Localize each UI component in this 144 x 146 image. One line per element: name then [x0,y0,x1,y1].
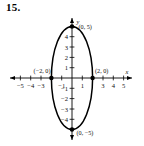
annotation-vertex-right: (2, 0) [95,67,108,75]
point-0-neg5 [70,127,74,131]
point-neg2-0 [49,76,53,80]
x-axis-arrow-right [127,76,132,80]
x-tick-labels: −5 −4 −3 −1 1 3 4 5 [17,82,126,89]
problem-number: 15. [6,1,20,13]
y-tick-label-4: 4 [65,33,69,40]
point-2-0 [90,76,94,80]
y-tick-label-neg1: −1 [61,85,68,92]
x-axis-arrow-left [10,76,15,80]
point-0-5 [70,24,74,28]
x-tick-label-1: 1 [81,82,84,89]
x-tick-label-4: 4 [112,82,116,89]
x-tick-label-neg4: −4 [27,82,35,89]
x-tick-label-neg3: −3 [37,82,45,89]
figure-container: 15. [0,0,144,146]
coordinate-plane-graph: −5 −4 −3 −1 1 3 4 5 4 3 2 1 −1 −2 −3 −4 [0,14,144,146]
annotation-vertex-left: (−2, 0) [34,67,51,75]
plot-area: −5 −4 −3 −1 1 3 4 5 4 3 2 1 −1 −2 −3 −4 [0,14,144,146]
y-axis-arrow-up [70,18,74,23]
y-tick-label-neg4: −4 [61,116,69,123]
y-tick-label-3: 3 [65,44,69,51]
x-axis-label: x [125,68,129,75]
y-tick-label-1: 1 [65,64,68,71]
y-tick-label-2: 2 [65,54,68,61]
y-tick-label-neg2: −2 [61,95,68,102]
x-tick-label-3: 3 [101,82,105,89]
y-axis-arrow-down [70,135,74,140]
y-axis [70,18,74,140]
x-tick-label-neg5: −5 [17,82,25,89]
annotation-vertex-top: (0, 5) [79,23,92,31]
x-tick-label-5: 5 [122,82,126,89]
y-tick-label-neg3: −3 [61,106,69,113]
annotation-vertex-bottom: (0, −5) [77,129,94,137]
